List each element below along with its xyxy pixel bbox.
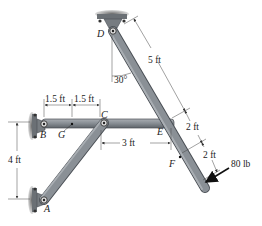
point-f-marker (179, 156, 181, 158)
label-e: E (156, 126, 163, 137)
dim-label-bg: 1.5 ft (45, 94, 65, 104)
label-c: C (101, 109, 108, 120)
dim-label-ef: 2 ft (186, 122, 199, 132)
dim-label-ab: 4 ft (8, 155, 21, 165)
pin-d (110, 28, 116, 34)
label-a: A (43, 203, 51, 214)
load-arrow (206, 168, 229, 182)
dim-label-ce: 3 ft (122, 138, 135, 148)
dim-label-de: 5 ft (148, 55, 161, 65)
dim-label-gc: 1.5 ft (74, 94, 94, 104)
frame-diagram: D B G C E F A 1.5 ft 1.5 ft 3 ft (0, 0, 262, 226)
point-g-marker (71, 123, 73, 125)
dim-label-f-load: 2 ft (203, 150, 216, 160)
member-ac (41, 121, 104, 200)
label-f: F (168, 158, 176, 169)
load-label: 80 lb (231, 159, 251, 169)
label-d: D (96, 28, 105, 39)
ceiling-support-d (95, 10, 129, 28)
pin-c (101, 120, 107, 126)
angle-label: 30° (114, 75, 128, 85)
pin-b (41, 121, 47, 127)
label-b: B (40, 129, 46, 140)
